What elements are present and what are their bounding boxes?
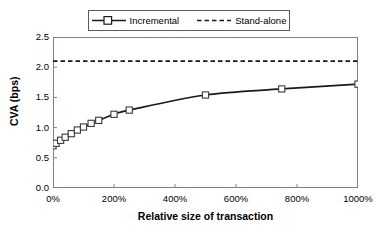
x-axis-tick-label: 400%	[163, 194, 187, 204]
cva-chart: Incremental Stand-alone 0.00.51.01.52.02…	[0, 0, 378, 232]
x-axis-tick-label: 0%	[46, 194, 60, 204]
y-axis-title: CVA (bps)	[9, 51, 20, 151]
x-axis-tick-label: 200%	[102, 194, 126, 204]
x-axis-tick-label: 1000%	[343, 194, 373, 204]
x-axis-tick-label: 600%	[224, 194, 248, 204]
x-axis-tick-labels: 0%200%400%600%800%1000%	[0, 0, 378, 232]
x-axis-tick-label: 800%	[285, 194, 309, 204]
x-axis-title: Relative size of transaction	[53, 211, 358, 222]
